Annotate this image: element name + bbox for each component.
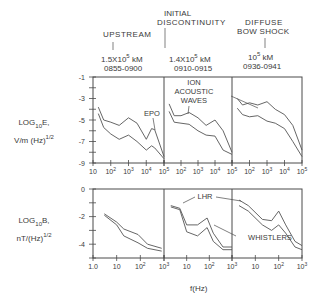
x-tick-label: 10: [183, 263, 191, 270]
x-tick-label: 10: [251, 263, 259, 270]
y-tick-label: -9: [79, 160, 85, 167]
y-tick-label: -4: [79, 241, 85, 248]
y-tick-label: -2: [79, 213, 85, 220]
spectrum-curve-upper: [171, 206, 232, 247]
x-tick-label: 105: [159, 166, 170, 175]
x-tick-label: 102: [105, 166, 116, 175]
x-tick-label: 103: [297, 261, 308, 270]
y-tick-label: -3: [79, 95, 85, 102]
ion-acoustic-label-1: ION: [187, 78, 200, 87]
spectrum-curve-lower: [239, 206, 302, 250]
whistlers-arrow: [214, 225, 236, 236]
x-tick-label: 105: [297, 166, 308, 175]
x-tick-label: 102: [273, 261, 284, 270]
spectrum-curve-lower: [171, 207, 232, 250]
ion-acoustic-arrow-2: [231, 96, 258, 108]
x-tick-label: 102: [176, 166, 187, 175]
spectrum-curve-lower: [169, 111, 232, 154]
x-tick-label: 10: [89, 168, 97, 175]
spectrum-curve-upper: [237, 99, 302, 151]
lhr-label: LHR: [197, 192, 213, 201]
x-tick-label: 104: [279, 166, 290, 175]
spectrum-curve-lower: [98, 114, 164, 159]
x-tick-label: 104: [210, 166, 221, 175]
x-tick-label: 103: [262, 166, 273, 175]
spectrum-curve-upper: [169, 104, 232, 152]
spectra-plot: -1-3-5-7-9101021031041051021031041051021…: [0, 0, 317, 296]
x-tick-label: 103: [123, 166, 134, 175]
whistlers-label: WHISTLERS: [248, 233, 292, 242]
x-tick-label: 10: [113, 263, 121, 270]
epo-label: EPO: [144, 109, 160, 118]
x-tick-label: 103: [159, 261, 170, 270]
x-tick-label: 1.0: [88, 263, 98, 270]
ion-acoustic-label-2: ACOUSTIC: [175, 87, 214, 96]
spectrum-curve-lower: [237, 108, 302, 156]
ion-acoustic-label-3: WAVES: [181, 96, 207, 105]
spectrum-curve-upper: [104, 214, 161, 249]
x-axis-label: f(Hz): [190, 284, 207, 293]
x-tick-label: 102: [135, 261, 146, 270]
x-tick-label: 105: [227, 166, 238, 175]
x-tick-label: 103: [227, 261, 238, 270]
lhr-arrow-1: [183, 197, 195, 203]
x-tick-label: 103: [193, 166, 204, 175]
epo-arrow: [153, 118, 155, 130]
x-tick-label: 104: [141, 166, 152, 175]
x-tick-label: 102: [244, 166, 255, 175]
y-tick-label: -1: [79, 74, 85, 81]
lhr-arrow-2: [216, 197, 241, 201]
y-tick-label: -5: [79, 117, 85, 124]
y-tick-label: -7: [79, 138, 85, 145]
y-tick-label: 0: [81, 186, 85, 193]
x-tick-label: 102: [204, 261, 215, 270]
